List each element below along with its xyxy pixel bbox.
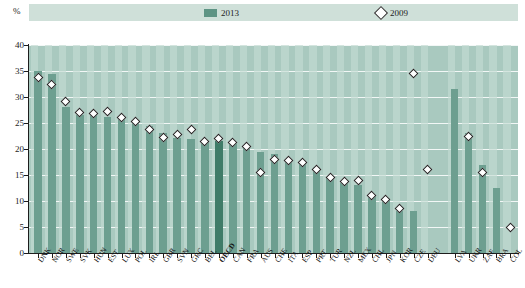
legend-item-2013: 2013	[204, 6, 239, 19]
y-tick	[24, 175, 29, 176]
y-tick-label-wrap: 15	[0, 171, 24, 180]
y-axis-unit-label: %	[13, 6, 21, 16]
bar-che	[271, 154, 279, 253]
bar-grc	[187, 139, 195, 253]
y-tick-label: 15	[2, 171, 24, 180]
legend-label-2013: 2013	[221, 8, 239, 18]
legend-item-2009: 2009	[376, 6, 408, 19]
bar-oecd	[215, 141, 223, 253]
bar-fra	[243, 146, 251, 253]
y-tick	[24, 227, 29, 228]
y-tick-label: 0	[2, 249, 24, 258]
bar-est	[104, 117, 112, 253]
chart-root: % 2013 2009 0510152025303540 DNKNORSWESV…	[0, 0, 525, 288]
bar-bra	[493, 188, 501, 253]
bar-prt	[313, 167, 321, 253]
bar-kor	[396, 211, 404, 253]
bar-zaf	[479, 165, 487, 253]
bar-svk	[76, 115, 84, 253]
bar-cze	[410, 211, 418, 253]
y-tick-label-wrap: 10	[0, 197, 24, 206]
bar-ukr	[465, 133, 473, 253]
y-tick-label-wrap: 30	[0, 93, 24, 102]
bar-bel	[201, 141, 209, 253]
bar-jpn	[382, 198, 390, 253]
y-tick	[24, 71, 29, 72]
bar-swe	[62, 107, 70, 253]
y-tick-label: 20	[2, 145, 24, 154]
bar-mex	[354, 185, 362, 253]
bar-lux	[118, 118, 126, 253]
bar-pol	[132, 122, 140, 253]
y-tick-label-wrap: 0	[0, 249, 24, 258]
chart-legend: 2013 2009	[29, 4, 518, 21]
bar-esp	[299, 162, 307, 253]
y-tick	[24, 45, 29, 46]
bar-swatch-icon	[204, 9, 217, 17]
bar-can	[229, 144, 237, 253]
bar-ita	[285, 159, 293, 253]
diamond-swatch-icon	[374, 5, 388, 19]
y-tick-label: 30	[2, 93, 24, 102]
bar-hun	[90, 115, 98, 253]
y-tick-label-wrap: 40	[0, 41, 24, 50]
y-tick	[24, 97, 29, 98]
bar-irl	[146, 126, 154, 253]
plot-area	[29, 45, 518, 253]
y-tick-label: 35	[2, 67, 24, 76]
y-tick-label-wrap: 35	[0, 67, 24, 76]
bar-svn	[173, 138, 181, 253]
y-tick-label: 5	[2, 223, 24, 232]
bar-tur	[326, 178, 334, 253]
y-tick-label: 25	[2, 119, 24, 128]
y-tick	[24, 201, 29, 202]
column-stripe	[421, 45, 428, 253]
y-tick	[24, 149, 29, 150]
y-tick-label-wrap: 25	[0, 119, 24, 128]
y-tick	[24, 123, 29, 124]
bar-chl	[368, 196, 376, 253]
bar-nor	[48, 74, 56, 253]
legend-label-2009: 2009	[390, 8, 408, 18]
y-tick	[24, 253, 29, 254]
bar-lva	[451, 89, 459, 253]
bar-gbr	[159, 133, 167, 253]
y-tick-label-wrap: 5	[0, 223, 24, 232]
y-tick-label: 10	[2, 197, 24, 206]
bar-dnk	[34, 71, 42, 253]
y-tick-label-wrap: 20	[0, 145, 24, 154]
y-tick-label: 40	[2, 41, 24, 50]
bar-nzl	[340, 183, 348, 253]
